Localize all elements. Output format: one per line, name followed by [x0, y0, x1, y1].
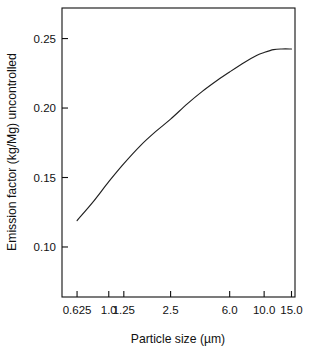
y-axis-title: Emission factor (kg/Mg) uncontrolled [5, 53, 19, 251]
data-series-line [77, 49, 291, 221]
chart-figure: 0.100.150.200.25 0.6251.01.252.56.010.01… [0, 0, 310, 350]
x-tick-label: 10.0 [253, 304, 275, 316]
x-axis-ticks [77, 291, 291, 297]
x-axis-title: Particle size (µm) [131, 332, 225, 346]
y-axis-tick-labels: 0.100.150.200.25 [34, 33, 56, 253]
x-tick-label: 15.0 [280, 304, 302, 316]
x-axis-tick-labels: 0.6251.01.252.56.010.015.0 [63, 304, 303, 316]
x-tick-label: 0.625 [63, 304, 92, 316]
x-tick-label: 2.5 [163, 304, 179, 316]
y-tick-label: 0.25 [34, 33, 56, 45]
x-tick-label: 6.0 [222, 304, 238, 316]
y-tick-label: 0.10 [34, 241, 56, 253]
y-tick-label: 0.20 [34, 102, 56, 114]
x-tick-label: 1.25 [113, 304, 135, 316]
plot-frame [62, 8, 295, 297]
y-axis-ticks [62, 39, 68, 247]
y-tick-label: 0.15 [34, 172, 56, 184]
line-chart: 0.100.150.200.25 0.6251.01.252.56.010.01… [0, 0, 310, 350]
